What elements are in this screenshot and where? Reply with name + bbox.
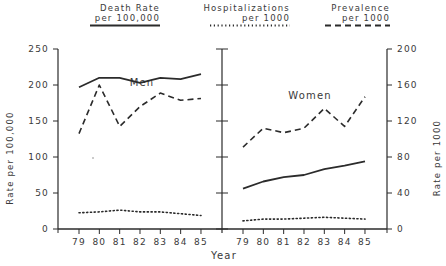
y-tick-label-left: 0 — [42, 224, 49, 234]
legend-label: Death Rate — [100, 3, 160, 13]
x-tick-label: 84 — [174, 237, 188, 247]
y-tick-label-right: 200 — [397, 44, 418, 54]
legend-entry: Prevalenceper 1000 — [325, 3, 390, 26]
y-tick-label-right: 120 — [397, 116, 418, 126]
series-dashed — [243, 97, 365, 147]
x-tick-label: 83 — [317, 237, 331, 247]
y-axis-title-right: Rate per 1000 — [432, 120, 442, 196]
x-tick-label: 84 — [338, 237, 352, 247]
y-tick-label-left: 250 — [28, 44, 49, 54]
legend-label: per 100,000 — [95, 13, 160, 23]
x-tick-label: 82 — [133, 237, 147, 247]
series-dashed — [79, 85, 201, 134]
series-solid — [243, 161, 365, 188]
x-tick-label: 80 — [92, 237, 106, 247]
x-tick-label: 85 — [194, 237, 208, 247]
y-axis-title-left: Rate per 100,000 — [5, 111, 15, 204]
series-dotted — [243, 217, 365, 221]
x-tick-label: 80 — [256, 237, 270, 247]
y-tick-label-left: 150 — [28, 116, 49, 126]
legend-entry: Hospitalizationsper 1000 — [203, 3, 290, 26]
y-tick-label-left: 200 — [28, 80, 49, 90]
y-tick-label-right: 0 — [397, 224, 404, 234]
chart: Death Rateper 100,000Hospitalizationsper… — [0, 0, 446, 266]
y-tick-label-right: 80 — [397, 152, 411, 162]
legend-label: Prevalence — [331, 3, 390, 13]
x-tick-label: 82 — [297, 237, 311, 247]
panel-title: Women — [288, 90, 332, 101]
panel-women: Women — [243, 90, 365, 221]
series-dotted — [79, 210, 201, 215]
x-tick-label: 81 — [277, 237, 291, 247]
x-tick-label: 79 — [236, 237, 250, 247]
axes — [53, 49, 392, 234]
x-tick-label: 81 — [113, 237, 127, 247]
panel-men: Men — [79, 74, 201, 215]
legend-entry: Death Rateper 100,000 — [90, 3, 160, 26]
y-tick-label-left: 100 — [28, 152, 49, 162]
x-axis-title: Year — [210, 250, 237, 261]
y-tick-label-right: 40 — [397, 188, 411, 198]
y-tick-label-left: 50 — [35, 188, 49, 198]
scan-speck — [92, 157, 94, 159]
legend-label: per 1000 — [242, 13, 290, 23]
y-tick-label-right: 160 — [397, 80, 418, 90]
x-tick-label: 85 — [358, 237, 372, 247]
x-tick-label: 79 — [72, 237, 86, 247]
legend-label: per 1000 — [342, 13, 390, 23]
x-tick-label: 83 — [153, 237, 167, 247]
legend-label: Hospitalizations — [203, 3, 290, 13]
